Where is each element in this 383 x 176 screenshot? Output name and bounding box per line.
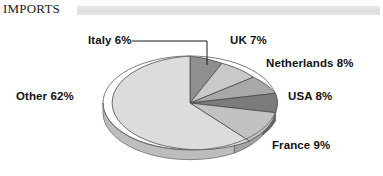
- slice-label-netherlands: Netherlands 8%: [266, 58, 354, 70]
- header-rule-band: [77, 6, 380, 15]
- slice-label-france: France 9%: [272, 140, 330, 152]
- slice-label-usa: USA 8%: [288, 91, 332, 103]
- slice-label-other: Other 62%: [16, 91, 74, 103]
- chart-stage: Italy 6% UK 7% Netherlands 8% USA 8% Fra…: [0, 20, 383, 176]
- imports-pie-chart-figure: IMPORTS: [0, 0, 383, 176]
- slice-label-uk: UK 7%: [230, 35, 267, 47]
- slice-label-italy: Italy 6%: [88, 35, 132, 47]
- page-title: IMPORTS: [3, 1, 60, 17]
